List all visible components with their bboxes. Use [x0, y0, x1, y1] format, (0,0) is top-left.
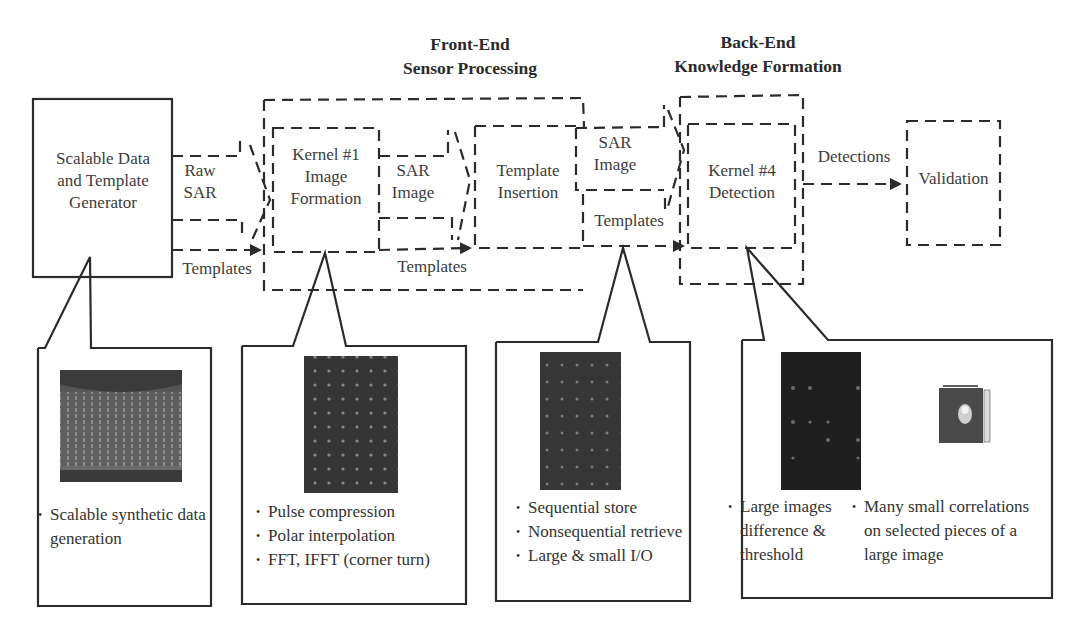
bullet-item: Pulse compression: [256, 500, 471, 524]
node-label: Kernel #4: [690, 160, 794, 182]
header-line: Front-End: [370, 32, 570, 56]
node-label: Validation: [907, 168, 1000, 190]
callout-kernel1-text: Pulse compression Polar interpolation FF…: [256, 500, 471, 572]
back-end-header: Back-End Knowledge Formation: [648, 30, 868, 78]
front-end-header: Front-End Sensor Processing: [370, 32, 570, 80]
node-label: Formation: [273, 188, 379, 210]
thumbnail-kernel1: [304, 356, 398, 493]
edge-label: SAR: [380, 160, 446, 182]
node-label: Template: [478, 160, 578, 182]
edge-label: Templates: [594, 211, 664, 230]
edge-label: SAR: [176, 182, 224, 204]
callout-generator-text: Scalable synthetic data generation: [38, 503, 208, 551]
node-label: Detection: [690, 182, 794, 204]
node-label: and Template: [36, 170, 170, 192]
bullet-item: Scalable synthetic data generation: [38, 503, 208, 551]
bullet-item: Nonsequential retrieve: [516, 520, 684, 544]
edge-label: Image: [380, 182, 446, 204]
bullet-item: Many small correlations on selected piec…: [852, 495, 1050, 567]
callout-kernel4-right-text: Many small correlations on selected piec…: [852, 495, 1050, 567]
node-label: Scalable Data: [36, 148, 170, 170]
thumbnail-kernel4-large: [781, 352, 861, 490]
bullet-item: Large images difference & threshold: [728, 495, 843, 567]
node-generator: Scalable Data and Template Generator: [36, 148, 170, 214]
bullet-item: Polar interpolation: [256, 524, 471, 548]
edge-label-templates-1: Templates: [172, 258, 262, 280]
thumbnail-kernel4-small: [939, 386, 990, 443]
bullet-item: Sequential store: [516, 496, 684, 520]
thumbnail-storage: [540, 352, 621, 490]
node-kernel4: Kernel #4 Detection: [690, 160, 794, 204]
node-label: Generator: [36, 192, 170, 214]
node-label: Insertion: [478, 182, 578, 204]
edge-label-sar-image-2: SAR Image: [585, 132, 645, 176]
thumbnail-generator: [60, 370, 182, 482]
edge-label: Raw: [176, 160, 224, 182]
bullet-item: Large & small I/O: [516, 544, 684, 568]
edge-label-raw-sar: Raw SAR: [176, 160, 224, 204]
edge-label-detections: Detections: [806, 146, 902, 168]
node-template-insertion: Template Insertion: [478, 160, 578, 204]
edge-label: Templates: [397, 257, 467, 276]
header-line: Knowledge Formation: [648, 54, 868, 78]
bullet-item: FFT, IFFT (corner turn): [256, 548, 471, 572]
edge-label: Templates: [182, 259, 252, 278]
node-kernel1: Kernel #1 Image Formation: [273, 144, 379, 210]
header-line: Sensor Processing: [370, 56, 570, 80]
edge-label: SAR: [585, 132, 645, 154]
node-validation: Validation: [907, 168, 1000, 190]
edge-label: Image: [585, 154, 645, 176]
header-line: Back-End: [648, 30, 868, 54]
node-label: Image: [273, 166, 379, 188]
edge-label-templates-2: Templates: [382, 256, 482, 278]
edge-label: Detections: [818, 147, 891, 166]
callout-storage-text: Sequential store Nonsequential retrieve …: [516, 496, 684, 568]
callout-kernel4-left-text: Large images difference & threshold: [728, 495, 843, 567]
edge-label-sar-image-1: SAR Image: [380, 160, 446, 204]
node-label: Kernel #1: [273, 144, 379, 166]
edge-label-templates-3: Templates: [584, 210, 674, 232]
